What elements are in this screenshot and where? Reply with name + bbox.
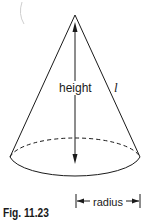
figure-caption: Fig. 11.23	[3, 206, 49, 220]
radius-label: radius	[92, 196, 124, 208]
scan-artifact	[20, 2, 24, 24]
radius-arrow-left-icon	[77, 199, 84, 204]
height-label: height	[58, 81, 93, 95]
radius-arrow-right-icon	[132, 199, 139, 204]
slant-height-label: l	[114, 80, 118, 96]
height-arrow-up-icon	[73, 22, 78, 32]
cone-diagram	[0, 0, 154, 221]
height-arrow-down-icon	[73, 154, 78, 164]
